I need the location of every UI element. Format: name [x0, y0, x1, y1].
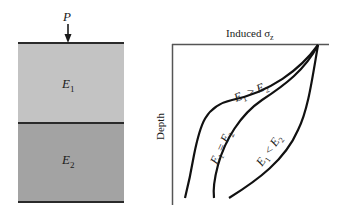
label-e1-less: E1 < E2	[252, 132, 286, 171]
label-e1-greater: E1 > E2	[231, 79, 271, 107]
diagram-graphics: E1 > E2 E1 = E2 E1 < E2	[0, 0, 342, 209]
load-arrow-icon	[65, 24, 72, 43]
curve-e1-less	[229, 45, 318, 198]
label-e1-equal: E1 = E2	[207, 128, 237, 168]
curve-e1-greater	[185, 45, 318, 198]
